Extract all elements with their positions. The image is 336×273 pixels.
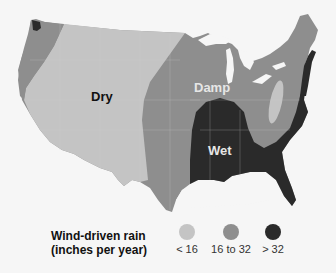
region-label-dry: Dry — [91, 90, 113, 103]
legend-swatch-dry-icon — [179, 224, 195, 240]
region-label-wet: Wet — [208, 144, 232, 157]
region-label-damp: Damp — [194, 81, 230, 94]
legend-item-wet: > 32 — [243, 224, 303, 255]
legend-swatch-wet-icon — [265, 224, 281, 240]
legend-title: Wind-driven rain (inches per year) — [51, 229, 147, 257]
legend-swatch-damp-icon — [223, 224, 239, 240]
legend-label-wet: > 32 — [243, 243, 303, 255]
legend-title-line2: (inches per year) — [51, 243, 147, 257]
legend-title-line1: Wind-driven rain — [51, 229, 147, 243]
